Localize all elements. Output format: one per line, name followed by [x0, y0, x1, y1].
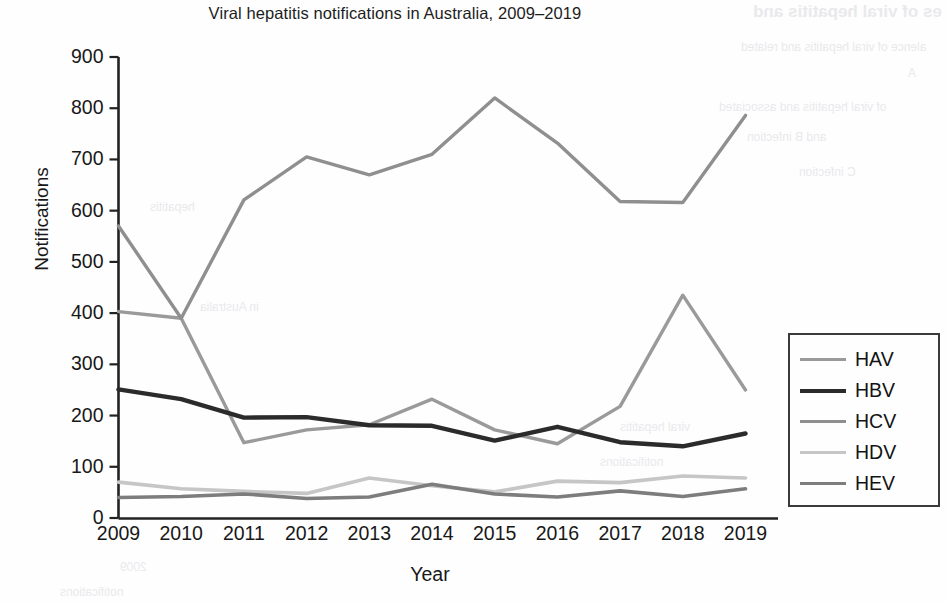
series-line-hav [119, 295, 746, 444]
chart-figure: es of viral hepatitis and alence of vira… [0, 0, 946, 604]
x-axis-tick-label: 2019 [709, 524, 783, 544]
legend-swatch-hdv-icon [800, 451, 846, 454]
x-axis-label: Year [100, 563, 760, 586]
y-axis-tick-label: 700 [48, 149, 104, 169]
legend-item-hbv[interactable]: HBV [790, 375, 938, 406]
y-axis-ticks [110, 57, 119, 518]
plot-area [0, 0, 946, 604]
data-series-group [119, 98, 746, 499]
y-axis-tick-label: 600 [48, 201, 104, 221]
legend-item-hcv[interactable]: HCV [790, 406, 938, 437]
y-axis-label: Notifications [31, 119, 53, 319]
y-axis-tick-label: 300 [48, 354, 104, 374]
y-axis-tick-label: 100 [48, 457, 104, 477]
legend-swatch-hbv-icon [800, 389, 846, 393]
legend-swatch-hav-icon [800, 358, 846, 361]
y-axis-tick-label: 900 [48, 47, 104, 67]
legend-label: HAV [855, 350, 894, 370]
legend-swatch-hev-icon [800, 482, 846, 485]
chart-legend: HAVHBVHCVHDVHEV [788, 333, 940, 507]
legend-label: HDV [855, 443, 896, 463]
legend-swatch-hcv-icon [800, 420, 846, 423]
legend-item-hav[interactable]: HAV [790, 344, 938, 375]
legend-item-hdv[interactable]: HDV [790, 437, 938, 468]
legend-label: HBV [855, 381, 895, 401]
y-axis-tick-label: 800 [48, 98, 104, 118]
legend-item-hev[interactable]: HEV [790, 468, 938, 499]
legend-label: HCV [855, 412, 896, 432]
series-line-hcv [119, 98, 746, 318]
y-axis-tick-label: 200 [48, 406, 104, 426]
y-axis-tick-label: 400 [48, 303, 104, 323]
y-axis-tick-label: 500 [48, 252, 104, 272]
legend-label: HEV [855, 474, 895, 494]
